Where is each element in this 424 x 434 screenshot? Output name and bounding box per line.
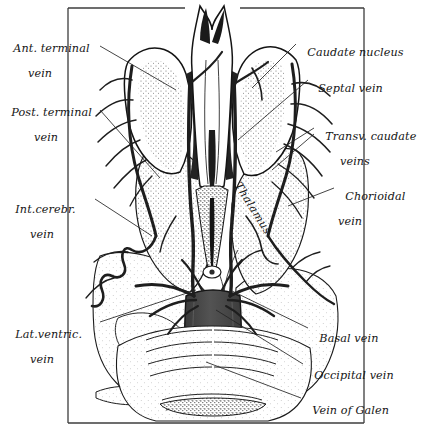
label-chorioidal-vein-line2: vein	[338, 216, 405, 229]
label-caudate-nucleus: Caudate nucleus	[300, 34, 404, 59]
label-occipital-vein: Occipital vein	[307, 357, 394, 382]
label-ant-terminal-vein-line1: Ant. terminal	[13, 42, 89, 55]
label-int-cerebr-vein: Int.cerebr. vein	[8, 191, 76, 254]
label-lat-ventric-vein: Lat.ventric. vein	[8, 316, 82, 379]
label-basal-vein-line1: Basal vein	[319, 332, 378, 345]
label-ant-terminal-vein-line2: vein	[6, 68, 90, 81]
label-transv-caudate-veins-line2: veins	[318, 156, 416, 169]
label-ant-terminal-vein: Ant. terminal vein	[6, 30, 90, 93]
brainstem-cerebellum	[117, 326, 312, 421]
label-septal-vein: Septal vein	[311, 70, 383, 95]
label-lat-ventric-vein-line2: vein	[8, 354, 82, 367]
label-basal-vein: Basal vein	[312, 320, 378, 345]
label-septal-vein-line1: Septal vein	[318, 82, 383, 95]
label-post-terminal-vein-line2: vein	[4, 132, 92, 145]
label-vein-of-galen-line1: Vein of Galen	[312, 404, 389, 417]
label-vein-of-galen: Vein of Galen	[305, 392, 389, 417]
label-lat-ventric-vein-line1: Lat.ventric.	[15, 328, 82, 341]
label-chorioidal-vein: Chorioidal vein	[338, 178, 405, 241]
label-chorioidal-vein-line1: Chorioidal	[345, 190, 405, 203]
label-transv-caudate-veins-line1: Transv. caudate	[325, 130, 416, 143]
label-caudate-nucleus-line1: Caudate nucleus	[307, 46, 403, 59]
label-transv-caudate-veins: Transv. caudate veins	[318, 118, 416, 181]
label-int-cerebr-vein-line1: Int.cerebr.	[15, 203, 75, 216]
label-occipital-vein-line1: Occipital vein	[314, 369, 393, 382]
label-post-terminal-vein-line1: Post. terminal	[11, 106, 92, 119]
label-int-cerebr-vein-line2: vein	[8, 229, 76, 242]
label-post-terminal-vein: Post. terminal vein	[4, 94, 92, 157]
